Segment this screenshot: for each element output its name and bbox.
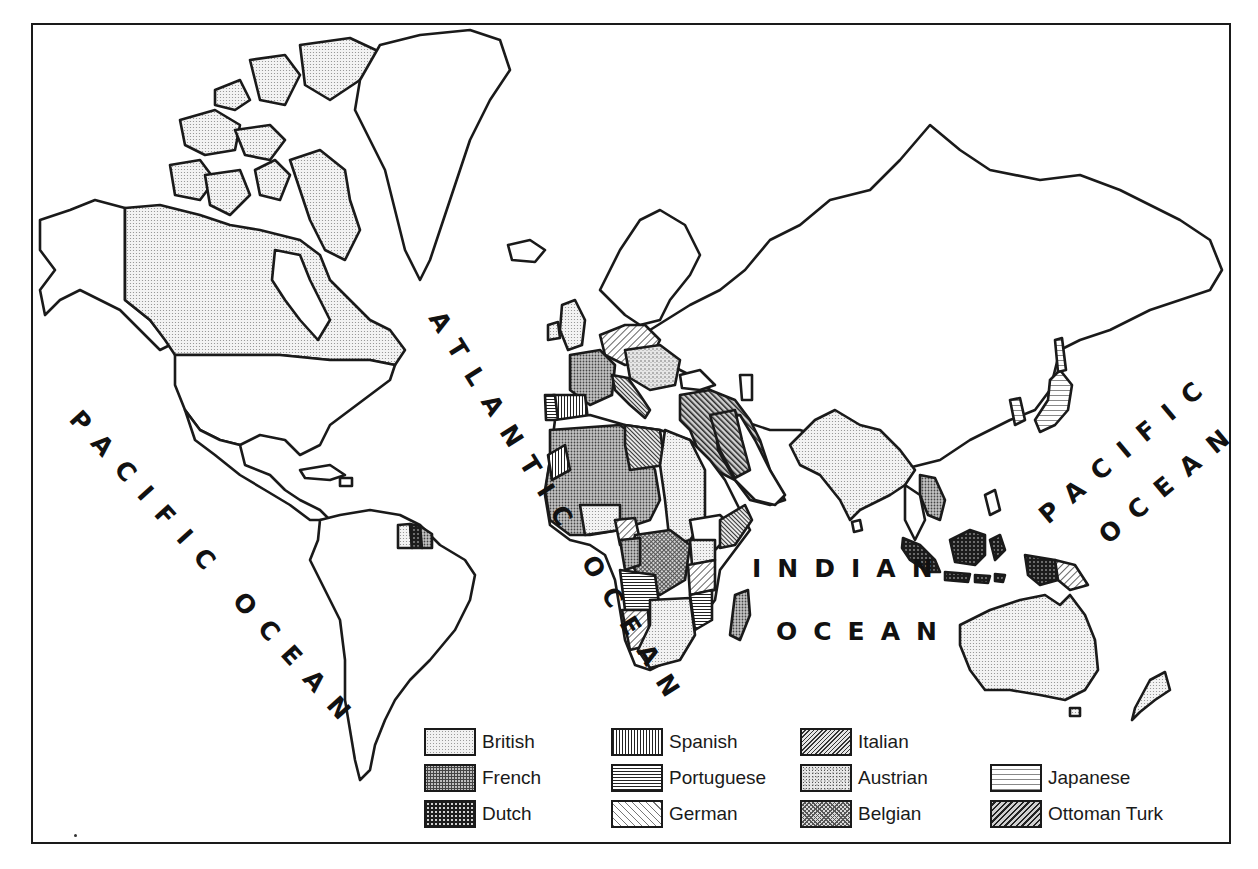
french-guiana — [420, 526, 432, 548]
legend-item-british: British — [424, 727, 535, 757]
legend-item-german: German — [611, 799, 738, 829]
spanish-pattern-swatch — [611, 728, 663, 756]
legend-item-dutch: Dutch — [424, 799, 532, 829]
legend-label: French — [482, 767, 541, 789]
legend-item-ottoman-turk: Ottoman Turk — [990, 799, 1163, 829]
french-pattern-swatch — [424, 764, 476, 792]
ireland — [548, 322, 560, 340]
japanese-pattern-swatch — [990, 764, 1042, 792]
legend-label: Belgian — [858, 803, 921, 825]
legend-label: German — [669, 803, 738, 825]
new-guinea-dutch — [1025, 555, 1058, 585]
tasmania — [1070, 708, 1080, 716]
italian-pattern-swatch — [800, 728, 852, 756]
legend-item-austrian: Austrian — [800, 763, 928, 793]
canada — [125, 205, 405, 365]
print-speck — [74, 834, 77, 837]
legend-item-french: French — [424, 763, 541, 793]
legend-label: Austrian — [858, 767, 928, 789]
madagascar — [730, 590, 750, 640]
ocean-label-indian-1: INDIAN — [752, 554, 949, 583]
great-britain — [560, 300, 585, 350]
legend-label: Portuguese — [669, 767, 766, 789]
borneo — [950, 530, 985, 565]
greenland — [355, 30, 510, 280]
legend-item-portuguese: Portuguese — [611, 763, 766, 793]
portugal — [545, 395, 558, 420]
ceylon — [852, 520, 862, 532]
iceland — [508, 240, 545, 262]
legend: British French Dutch Spanish Portuguese … — [424, 727, 1204, 833]
legend-label: Dutch — [482, 803, 532, 825]
legend-label: Italian — [858, 731, 909, 753]
ottoman-turk-pattern-swatch — [990, 800, 1042, 828]
belgian-pattern-swatch — [800, 800, 852, 828]
australia — [960, 595, 1098, 700]
legend-label: Spanish — [669, 731, 738, 753]
legend-label: Japanese — [1048, 767, 1130, 789]
german-pattern-swatch — [611, 800, 663, 828]
austrian-pattern-swatch — [800, 764, 852, 792]
legend-label: British — [482, 731, 535, 753]
philippines — [985, 490, 1000, 515]
new-zealand — [1132, 672, 1170, 720]
ocean-label-indian-2: OCEAN — [776, 617, 953, 646]
new-guinea-german — [1055, 560, 1088, 590]
caspian-sea — [740, 375, 752, 400]
legend-item-spanish: Spanish — [611, 727, 738, 757]
legend-item-italian: Italian — [800, 727, 909, 757]
sulawesi — [990, 535, 1005, 560]
legend-item-japanese: Japanese — [990, 763, 1130, 793]
british-pattern-swatch — [424, 728, 476, 756]
dutch-pattern-swatch — [424, 800, 476, 828]
ocean-label-pacific-east-2: OCEAN — [1093, 414, 1247, 550]
legend-label: Ottoman Turk — [1048, 803, 1163, 825]
french-equatorial — [620, 538, 640, 570]
legend-item-belgian: Belgian — [800, 799, 921, 829]
portuguese-pattern-swatch — [611, 764, 663, 792]
